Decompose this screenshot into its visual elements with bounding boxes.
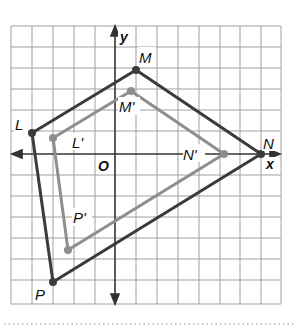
coordinate-plane-diagram: y x O M L N P M' L' N' P' bbox=[0, 0, 299, 329]
label-L-prime: L' bbox=[72, 134, 84, 151]
x-axis-left-arrow-icon bbox=[12, 150, 22, 158]
label-N-prime: N' bbox=[183, 146, 198, 163]
vertex-L bbox=[28, 129, 36, 137]
vertex-L-prime bbox=[49, 134, 57, 142]
labels: y x O M L N P M' L' N' P' bbox=[14, 28, 279, 303]
y-axis-up-arrow-icon bbox=[111, 26, 119, 36]
label-M-prime: M' bbox=[119, 98, 135, 115]
label-L: L bbox=[15, 116, 23, 133]
vertex-P bbox=[49, 278, 57, 286]
vertex-points bbox=[28, 66, 265, 286]
y-axis-down-arrow-icon bbox=[111, 294, 119, 304]
label-N: N bbox=[263, 135, 274, 152]
vertex-M bbox=[132, 66, 140, 74]
origin-label: O bbox=[98, 158, 109, 174]
y-axis-label: y bbox=[119, 29, 129, 45]
vertex-M-prime bbox=[127, 87, 135, 95]
label-M: M bbox=[139, 49, 152, 66]
vertex-P-prime bbox=[64, 246, 72, 254]
x-axis-label: x bbox=[265, 156, 275, 172]
label-P: P bbox=[35, 286, 45, 303]
vertex-N-prime bbox=[220, 150, 228, 158]
label-P-prime: P' bbox=[73, 209, 87, 226]
